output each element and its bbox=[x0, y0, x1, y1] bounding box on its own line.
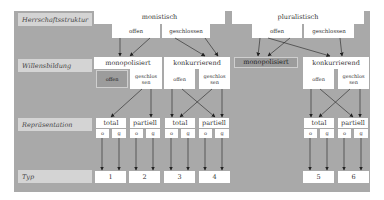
left-monopolisiert-offen-box: offen bbox=[96, 70, 128, 88]
typ-box-2: 2 bbox=[129, 171, 160, 183]
left-konkurrierend-geschlossen-box: geschlos sen bbox=[199, 69, 230, 89]
repraesentation-partiell-2: partiell bbox=[130, 118, 160, 128]
repraesentation-g-1: g bbox=[112, 129, 126, 138]
repraesentation-g-3: g bbox=[181, 129, 195, 138]
repraesentation-total-3: total bbox=[165, 118, 195, 128]
right-konkurrierend-offen-box: offen bbox=[303, 69, 334, 89]
repraesentation-o-1: o bbox=[96, 129, 109, 138]
typ-box-6: 6 bbox=[338, 171, 369, 183]
typ-box-5: 5 bbox=[303, 171, 334, 183]
repraesentation-g-2: g bbox=[146, 129, 160, 138]
diagram-panel bbox=[14, 11, 370, 192]
left-monopolisiert-box: monopolisiert bbox=[94, 57, 162, 69]
row-label-herrschaftsstruktur: Herrschaftsstruktur bbox=[18, 13, 92, 26]
repraesentation-total-1: total bbox=[96, 118, 126, 128]
repraesentation-o-6: o bbox=[338, 129, 351, 138]
pluralistisch-offen-box: offen bbox=[252, 24, 302, 38]
pluralistisch-box: pluralistisch bbox=[232, 11, 364, 24]
left-konkurrierend-box: konkurrierend bbox=[164, 57, 230, 69]
repraesentation-o-3: o bbox=[165, 129, 178, 138]
right-konkurrierend-geschlossen-box: geschlos sen bbox=[338, 69, 369, 89]
row-label-typ: Typ bbox=[18, 170, 92, 183]
repraesentation-o-2: o bbox=[130, 129, 143, 138]
repraesentation-o-5: o bbox=[304, 129, 317, 138]
left-monopolisiert-geschlossen-box: geschlos sen bbox=[130, 69, 162, 89]
typ-box-3: 3 bbox=[164, 171, 195, 183]
repraesentation-g-5: g bbox=[320, 129, 334, 138]
monistisch-offen-box: offen bbox=[112, 24, 160, 38]
repraesentation-g-6: g bbox=[354, 129, 368, 138]
monistisch-geschlossen-box: geschlossen bbox=[162, 24, 210, 38]
left-konkurrierend-offen-box: offen bbox=[164, 69, 195, 89]
right-konkurrierend-box: konkurrierend bbox=[303, 57, 369, 69]
pluralistisch-geschlossen-box: geschlossen bbox=[304, 24, 354, 38]
repraesentation-partiell-6: partiell bbox=[338, 118, 368, 128]
right-monopolisiert-box: monopolisiert bbox=[234, 57, 298, 68]
row-label-willensbildung: Willensbildung bbox=[18, 59, 92, 72]
repraesentation-total-5: total bbox=[304, 118, 334, 128]
repraesentation-g-4: g bbox=[215, 129, 229, 138]
monistisch-box: monistisch bbox=[94, 11, 225, 24]
typ-box-1: 1 bbox=[95, 171, 126, 183]
typ-box-4: 4 bbox=[199, 171, 230, 183]
repraesentation-o-4: o bbox=[199, 129, 212, 138]
row-label-repraesentation: Repräsentation bbox=[18, 118, 92, 131]
repraesentation-partiell-4: partiell bbox=[199, 118, 229, 128]
